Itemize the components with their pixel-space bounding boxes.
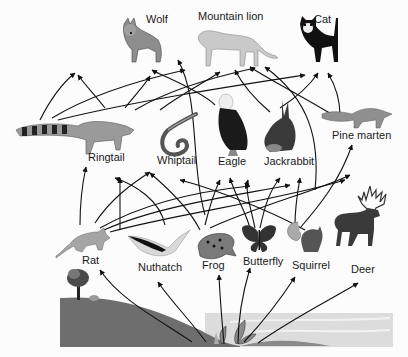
landscape <box>60 297 393 347</box>
deer-icon <box>335 186 386 246</box>
butterfly-icon <box>242 225 276 252</box>
jackrabbit-label: Jackrabbit <box>264 156 314 167</box>
ringtail-label: Ringtail <box>88 152 125 163</box>
eagle-label: Eagle <box>218 156 246 167</box>
nuthatch-label: Nuthatch <box>138 262 182 273</box>
food-web-canvas <box>0 0 408 357</box>
butterfly-label: Butterfly <box>243 256 283 267</box>
whiptail-label: Whiptail <box>157 155 196 166</box>
deer-label: Deer <box>351 264 375 275</box>
nuthatch-icon <box>128 230 190 256</box>
squirrel-label: Squirrel <box>292 260 330 271</box>
cat-label: Cat <box>314 14 331 25</box>
mountain-lion-icon <box>198 31 278 66</box>
squirrel-icon <box>288 222 323 252</box>
rat-label: Rat <box>82 255 99 266</box>
tree-icon <box>67 269 99 301</box>
pine-marten-label: Pine marten <box>332 130 391 141</box>
frog-icon <box>198 234 236 259</box>
eagle-icon <box>218 94 247 156</box>
frog-label: Frog <box>202 260 225 271</box>
pine-marten-icon <box>322 108 392 128</box>
wolf-label: Wolf <box>146 14 168 25</box>
whiptail-lizard-icon <box>162 114 196 154</box>
food-web-diagram: Wolf Mountain lion Cat Ringtail Whiptail… <box>0 0 408 357</box>
ringtail-icon <box>16 122 134 155</box>
mountain-lion-label: Mountain lion <box>198 11 263 22</box>
